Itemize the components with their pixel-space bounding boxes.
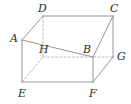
vertex-label-g: G — [117, 51, 126, 62]
visible-edges-group — [22, 16, 113, 82]
vertex-label-d: D — [38, 3, 47, 14]
edge-f-g — [93, 57, 113, 82]
cuboid-figure: ABCDEFGH — [0, 0, 131, 104]
hidden-edges-group — [22, 16, 113, 82]
vertex-label-b: B — [83, 44, 91, 55]
edge-a-d — [22, 16, 43, 40]
vertex-label-f: F — [89, 88, 97, 99]
edge-b-c — [93, 16, 113, 57]
edge-e-h — [22, 57, 43, 82]
vertex-label-c: C — [110, 3, 118, 14]
vertex-label-e: E — [18, 88, 26, 99]
vertex-label-h: H — [39, 44, 49, 55]
vertex-label-a: A — [10, 33, 18, 44]
